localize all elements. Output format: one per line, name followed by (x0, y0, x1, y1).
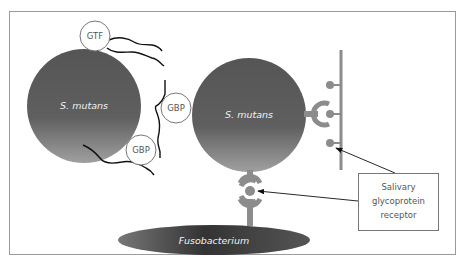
glucan-chain-upper (109, 38, 162, 51)
diagram-canvas: S. mutans GTF GBP GBP S. mutans (0, 0, 465, 268)
receptor-node-fuso (245, 186, 255, 196)
receptor-node-middle (326, 110, 334, 118)
fusobacterium-label: Fusobacterium (179, 235, 249, 246)
fusobacterium-cell: Fusobacterium (118, 225, 310, 255)
callout-line-3: receptor (381, 210, 417, 220)
callout-line-2: glycoprotein (372, 196, 425, 206)
adhesin-right (304, 103, 329, 125)
gtf-protein: GTF (80, 21, 110, 51)
callout-line-1: Salivary (381, 182, 415, 192)
smutans-right-cell: S. mutans (192, 58, 306, 172)
arrow-to-fuso-receptor (258, 191, 358, 201)
receptor-node-bottom (326, 139, 334, 147)
coaggregation-stalk (240, 170, 260, 226)
gbp-upper-label: GBP (167, 103, 185, 113)
gbp-lower-label: GBP (132, 145, 150, 155)
gbp-lower-protein: GBP (126, 135, 156, 165)
salivary-receptor-bar (326, 50, 343, 170)
smutans-right-label: S. mutans (225, 109, 273, 120)
smutans-left-label: S. mutans (60, 100, 108, 111)
glucan-chain-middle (155, 80, 165, 158)
callout-box: Salivary glycoprotein receptor (359, 174, 439, 231)
gtf-label: GTF (87, 31, 103, 41)
gbp-upper-protein: GBP (161, 93, 191, 123)
receptor-node-top (326, 81, 334, 89)
arrow-to-salivary-receptor (336, 148, 395, 173)
